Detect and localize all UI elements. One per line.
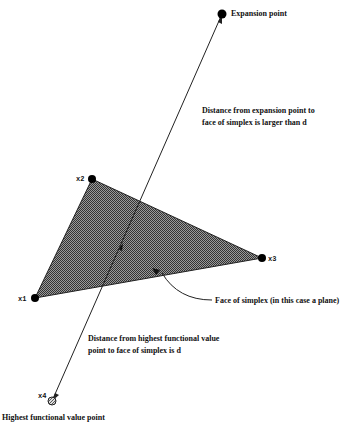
vertex-x4-label: x4 bbox=[38, 392, 46, 400]
vertex-x2-marker bbox=[88, 175, 96, 183]
vertex-x1-label: x1 bbox=[18, 295, 26, 303]
highest-distance-line2: point to face of simplex is d bbox=[88, 346, 181, 356]
face-of-simplex-label: Face of simplex (in this case a plane) bbox=[215, 296, 339, 306]
vertex-x3-label: x3 bbox=[268, 255, 276, 263]
expansion-point-marker bbox=[218, 10, 227, 19]
diagram-canvas bbox=[0, 0, 350, 427]
expansion-distance-line1: Distance from expansion point to bbox=[202, 106, 315, 116]
highest-point-label: Highest functional value point bbox=[2, 413, 105, 423]
expansion-distance-line2: face of simplex is larger than d bbox=[202, 118, 307, 128]
highest-distance-line1: Distance from highest functional value bbox=[88, 334, 219, 344]
expansion-point-label: Expansion point bbox=[231, 9, 287, 19]
vertex-x1-marker bbox=[31, 294, 39, 302]
vertex-x2-label: x2 bbox=[76, 175, 84, 183]
simplex-diagram: Expansion point Distance from expansion … bbox=[0, 0, 350, 427]
face-leader-line bbox=[162, 273, 212, 300]
vertex-x4-marker bbox=[48, 397, 56, 405]
simplex-face bbox=[35, 179, 262, 298]
vertex-x3-marker bbox=[258, 254, 266, 262]
